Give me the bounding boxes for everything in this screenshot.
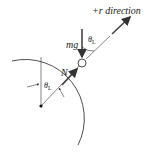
weight-label: mg (66, 40, 78, 50)
particle (78, 59, 86, 67)
r-direction-text: +r direction (92, 5, 141, 16)
angle-arc-top (82, 47, 94, 51)
theta-subscript: L (92, 39, 96, 45)
free-body-diagram: +r direction mg N θL θL (0, 0, 160, 155)
normal-force-label: N (61, 68, 68, 78)
r-direction-label: +r direction (92, 6, 141, 16)
diagram-graphics (0, 0, 160, 155)
center-point (39, 104, 42, 107)
r-direction-arrow (112, 17, 130, 34)
angle-mark-right (59, 88, 64, 97)
angle-label-center: θL (44, 82, 52, 91)
theta-subscript: L (48, 85, 52, 91)
angle-mark-left (27, 84, 39, 87)
angle-label-top: θL (88, 36, 96, 45)
